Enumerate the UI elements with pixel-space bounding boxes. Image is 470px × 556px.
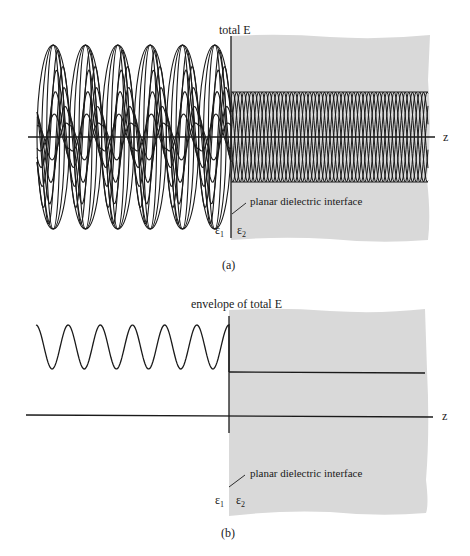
epsilon-1-label: ε1 — [215, 224, 224, 239]
epsilon-2-label: ε2 — [236, 494, 245, 509]
panel-a-total-field: total E z planar dielectric interface ε1… — [0, 0, 470, 270]
z-axis-label: z — [443, 131, 448, 143]
panel-b-plot — [0, 280, 470, 556]
interface-label: planar dielectric interface — [250, 196, 362, 207]
epsilon-2-label: ε2 — [237, 224, 246, 239]
y-axis-label: envelope of total E — [191, 298, 282, 310]
panel-b-caption: (b) — [221, 526, 235, 541]
interface-label: planar dielectric interface — [250, 468, 362, 479]
epsilon-1-label: ε1 — [215, 494, 224, 509]
region-eps2-background — [229, 309, 428, 516]
panel-a-plot — [0, 0, 470, 270]
z-axis-label: z — [442, 410, 447, 422]
panel-b-envelope: envelope of total E z planar dielectric … — [0, 280, 470, 556]
y-axis-label: total E — [219, 24, 251, 36]
envelope-curve — [36, 325, 229, 372]
panel-a-caption: (a) — [222, 258, 235, 273]
